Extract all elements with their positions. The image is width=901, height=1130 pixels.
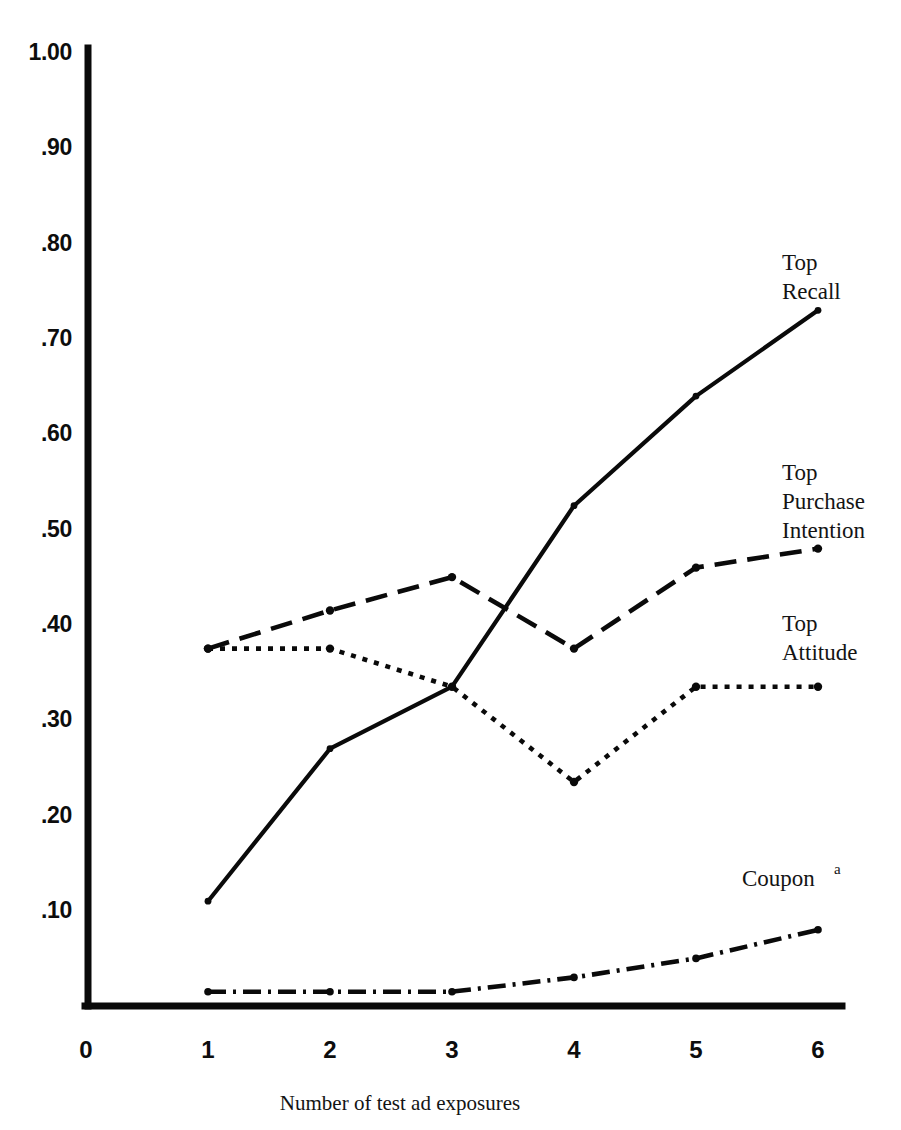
data-point <box>814 926 822 934</box>
y-tick-label: .80 <box>41 230 72 256</box>
y-tick-label: .10 <box>41 897 72 923</box>
data-point <box>693 393 700 400</box>
y-tick-label: .30 <box>41 706 72 732</box>
series-label-recall-line2: Recall <box>782 279 841 304</box>
x-tick-label: 3 <box>445 1036 458 1063</box>
data-point <box>204 988 212 996</box>
data-point <box>692 563 700 571</box>
series-top-attitude <box>204 644 822 786</box>
y-tick-label: .50 <box>41 516 72 542</box>
axes <box>85 48 842 1006</box>
data-point <box>814 683 822 691</box>
data-point <box>448 988 456 996</box>
series-label-recall-line1: Top <box>782 250 817 275</box>
series-label-coupon: Coupon a <box>742 861 841 891</box>
series-label-coupon-superscript: a <box>834 861 841 877</box>
x-tick-label: 5 <box>689 1036 702 1063</box>
x-axis-tick-labels: 0 1 2 3 4 5 6 <box>79 1036 824 1063</box>
y-tick-label: .70 <box>41 325 72 351</box>
series-layer <box>204 307 822 996</box>
series-label-recall: Top Recall <box>782 250 841 304</box>
y-tick-label: 1.00 <box>28 39 72 65</box>
data-point <box>570 778 578 786</box>
series-line <box>208 649 818 782</box>
y-axis-tick-labels: 1.00 .90 .80 .70 .60 .50 .40 .30 .20 .10 <box>28 39 72 923</box>
x-tick-label: 1 <box>201 1036 214 1063</box>
series-label-pi-line1: Top <box>782 460 817 485</box>
x-tick-label: 0 <box>79 1036 92 1063</box>
data-point <box>815 307 822 314</box>
series-line <box>208 930 818 992</box>
series-coupon <box>204 926 822 996</box>
series-label-attitude-line2: Attitude <box>782 640 857 665</box>
series-label-pi-line2: Purchase <box>782 489 865 514</box>
data-point <box>692 683 700 691</box>
series-label-coupon-line1: Coupon <box>742 866 815 891</box>
line-chart: 1.00 .90 .80 .70 .60 .50 .40 .30 .20 .10… <box>0 0 901 1130</box>
x-tick-label: 4 <box>567 1036 581 1063</box>
data-point <box>326 644 334 652</box>
y-tick-label: .90 <box>41 134 72 160</box>
data-point <box>814 544 822 552</box>
figure-container: 1.00 .90 .80 .70 .60 .50 .40 .30 .20 .10… <box>0 0 901 1130</box>
data-point <box>327 745 334 752</box>
y-tick-label: .60 <box>41 420 72 446</box>
data-point <box>326 606 334 614</box>
data-point <box>448 573 456 581</box>
series-line <box>208 310 818 901</box>
series-label-purchase-intention: Top Purchase Intention <box>782 460 866 543</box>
data-point <box>692 955 700 963</box>
y-tick-label: .20 <box>41 802 72 828</box>
data-point <box>204 644 212 652</box>
data-point <box>326 988 334 996</box>
series-label-attitude-line1: Top <box>782 611 817 636</box>
data-point <box>570 974 578 982</box>
data-point <box>571 502 578 509</box>
data-point <box>205 898 212 905</box>
x-tick-label: 2 <box>323 1036 336 1063</box>
x-axis-title: Number of test ad exposures <box>280 1091 520 1115</box>
series-top-recall <box>205 307 822 905</box>
data-point <box>570 644 578 652</box>
data-point <box>448 683 456 691</box>
x-tick-label: 6 <box>811 1036 824 1063</box>
series-label-attitude: Top Attitude <box>782 611 857 665</box>
y-tick-label: .40 <box>41 611 72 637</box>
series-label-pi-line3: Intention <box>782 518 866 543</box>
